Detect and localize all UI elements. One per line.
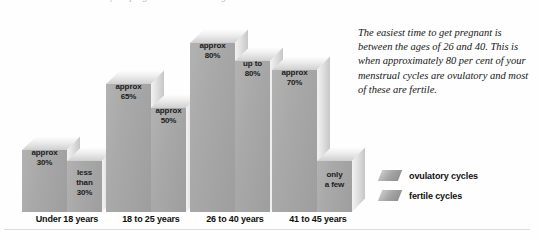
bar-side-face — [352, 148, 365, 212]
bar-front-face — [235, 61, 270, 212]
bar-front-face — [272, 70, 317, 212]
figure-container: your progesterone and oestrogen levels. … — [0, 0, 540, 240]
bar-chart-plot: approx30% lessthan30% approx65% approx50… — [0, 0, 380, 212]
bar-value-label: approx70% — [272, 68, 317, 88]
category-label-41-45: 41 to 45 years — [263, 214, 373, 224]
bar-value-label: lessthan30% — [67, 168, 102, 198]
bar-value-label: approx50% — [151, 106, 186, 126]
bar-value-label: approx30% — [22, 148, 67, 168]
bar-fertile-18-25[interactable]: approx50% — [151, 108, 186, 212]
chart-legend: ovulatory cycles fertile cycles — [380, 170, 530, 210]
legend-swatch-icon — [378, 170, 402, 181]
bar-fertile-26-40[interactable]: up to80% — [235, 61, 270, 212]
legend-swatch-icon — [378, 190, 402, 201]
bottom-divider — [4, 229, 530, 230]
legend-label: fertile cycles — [409, 191, 462, 201]
bar-value-label: approx80% — [190, 41, 235, 61]
bar-ovulatory-41-45[interactable]: approx70% — [272, 70, 317, 212]
legend-item-fertile[interactable]: fertile cycles — [380, 190, 530, 201]
bar-ovulatory-under-18[interactable]: approx30% — [22, 150, 67, 212]
legend-item-ovulatory[interactable]: ovulatory cycles — [380, 170, 530, 181]
caption-text: The easiest time to get pregnant is betw… — [358, 26, 538, 97]
bar-ovulatory-26-40[interactable]: approx80% — [190, 43, 235, 212]
bar-fertile-under-18[interactable]: lessthan30% — [67, 161, 102, 212]
bar-value-label: onlya few — [317, 170, 352, 190]
bar-value-label: approx65% — [106, 82, 151, 102]
bar-front-face — [106, 84, 151, 212]
bar-fertile-41-45[interactable]: onlya few — [317, 161, 352, 212]
bar-front-face — [190, 43, 235, 212]
bar-ovulatory-18-25[interactable]: approx65% — [106, 84, 151, 212]
bar-value-label: up to80% — [235, 59, 270, 79]
legend-label: ovulatory cycles — [409, 171, 478, 181]
